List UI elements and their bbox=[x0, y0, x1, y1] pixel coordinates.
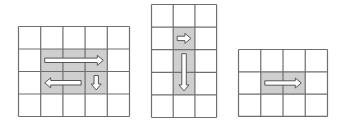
grid-cell bbox=[261, 49, 283, 71]
grid-cell bbox=[283, 49, 305, 71]
grid-cell bbox=[151, 95, 173, 118]
grid-5x4 bbox=[18, 26, 130, 117]
grid-cell bbox=[195, 5, 217, 28]
grid-cell bbox=[19, 94, 41, 117]
grid-cell bbox=[173, 95, 195, 118]
grid-cell bbox=[85, 27, 107, 50]
grid-cell bbox=[195, 72, 217, 95]
grid-cell bbox=[305, 49, 327, 71]
grid-cell bbox=[19, 49, 41, 72]
grid-cell bbox=[239, 94, 261, 116]
grid-cell bbox=[305, 94, 327, 116]
grid-cell bbox=[63, 94, 85, 117]
grid-cell bbox=[195, 95, 217, 118]
grid-cell bbox=[239, 49, 261, 71]
grid-cell bbox=[151, 50, 173, 73]
grid-cell bbox=[41, 27, 63, 50]
grid-cell bbox=[261, 94, 283, 116]
grid-cell bbox=[239, 72, 261, 94]
grid-cell bbox=[63, 27, 85, 50]
grid-cell bbox=[195, 27, 217, 50]
grid-cell bbox=[85, 94, 107, 117]
grid-cell bbox=[195, 50, 217, 73]
grid-cell bbox=[107, 27, 129, 50]
grid-cell bbox=[283, 94, 305, 116]
grid-cell bbox=[41, 94, 63, 117]
grid-3x5 bbox=[151, 4, 217, 118]
grid-cell bbox=[151, 72, 173, 95]
grid-cell bbox=[151, 5, 173, 28]
grid-cell bbox=[173, 5, 195, 28]
grid-cell bbox=[19, 72, 41, 95]
grid-cell bbox=[151, 27, 173, 50]
grid-cell bbox=[305, 72, 327, 94]
grid-cell bbox=[19, 27, 41, 50]
grid-4x3 bbox=[238, 49, 328, 117]
grid-cell bbox=[107, 72, 129, 95]
grid-cell bbox=[107, 94, 129, 117]
grid-cell bbox=[107, 49, 129, 72]
